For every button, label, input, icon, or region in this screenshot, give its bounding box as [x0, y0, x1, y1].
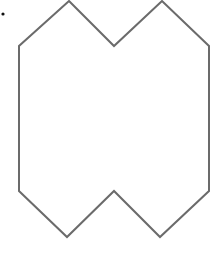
notched-polygon: [19, 1, 209, 237]
polygon-diagram: [0, 0, 217, 254]
marker-dot: [1, 12, 4, 15]
